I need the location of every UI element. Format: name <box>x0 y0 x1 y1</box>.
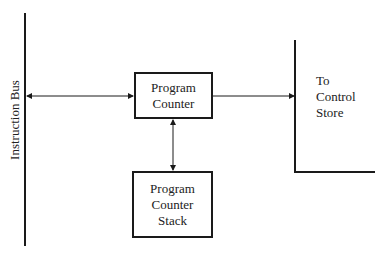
program-counter-box: Program Counter <box>134 72 213 119</box>
program-counter-line1: Program <box>151 80 196 96</box>
instruction-bus-label: Instruction Bus <box>7 72 23 168</box>
control-store-line1: To <box>316 73 356 89</box>
stack-line3: Stack <box>158 213 187 229</box>
instruction-bus-line <box>24 13 26 246</box>
control-store-line3: Store <box>316 105 356 121</box>
stack-line1: Program <box>150 181 195 197</box>
control-store-label: To Control Store <box>316 73 356 121</box>
control-store-horizontal-line <box>294 171 375 173</box>
control-store-vertical-line <box>294 40 296 173</box>
stack-line2: Counter <box>152 197 194 213</box>
control-store-line2: Control <box>316 89 356 105</box>
program-counter-line2: Counter <box>153 96 195 112</box>
program-counter-stack-box: Program Counter Stack <box>132 171 213 238</box>
